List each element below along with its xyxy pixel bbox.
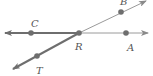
point-A [123, 30, 129, 36]
label-B: B [119, 0, 127, 7]
ray-RB [79, 1, 146, 33]
point-T [34, 53, 40, 59]
label-A: A [126, 42, 134, 53]
label-T: T [36, 65, 44, 76]
ray-RT [13, 33, 79, 69]
label-C: C [31, 18, 39, 29]
point-R [76, 30, 82, 36]
geometry-diagram: C R A B T [0, 0, 153, 76]
point-B [118, 9, 124, 15]
label-R: R [74, 41, 83, 52]
point-C [28, 30, 34, 36]
